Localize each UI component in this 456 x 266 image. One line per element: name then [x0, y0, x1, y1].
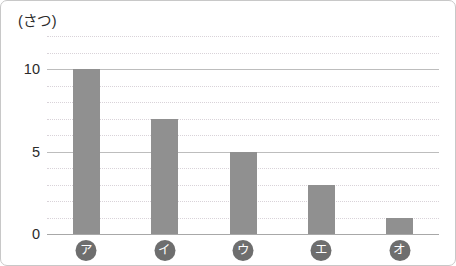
- x-axis-category-label: オ: [389, 240, 410, 261]
- bar: [386, 218, 413, 235]
- x-axis-category-label: イ: [154, 240, 175, 261]
- x-axis-category-label: エ: [311, 240, 332, 261]
- y-axis-tick-label: 5: [32, 143, 40, 159]
- bar: [230, 152, 257, 235]
- bars-group: [47, 36, 439, 234]
- bar: [308, 185, 335, 235]
- y-axis-tick-label: 10: [24, 61, 40, 77]
- y-axis-unit-label: (さつ): [18, 9, 57, 30]
- x-axis-labels: アイウエオ: [47, 234, 439, 266]
- bar: [73, 69, 100, 234]
- plot-area: 0510: [47, 36, 439, 234]
- y-axis-tick-label: 0: [32, 226, 40, 242]
- bar-chart-figure: (さつ) 0510 アイウエオ: [0, 0, 456, 266]
- x-axis-category-label: ア: [76, 240, 97, 261]
- bar: [151, 119, 178, 235]
- x-axis-category-label: ウ: [233, 240, 254, 261]
